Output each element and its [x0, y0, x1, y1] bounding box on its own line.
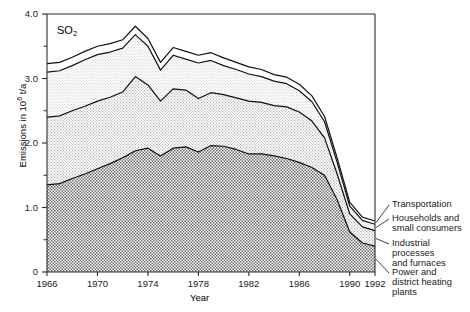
- chart-figure: SO2 Emissions in 106 t/a Year 4.03.02.01…: [0, 0, 470, 312]
- x-tick-label: 1982: [229, 278, 269, 289]
- x-tick-label: 1974: [128, 278, 168, 289]
- legend-item-1: Households andsmall consumers: [392, 214, 462, 234]
- legend-item-0: Transportation: [392, 200, 452, 210]
- legend-leader-3: [376, 259, 389, 273]
- y-tick-label: 3.0: [12, 73, 38, 84]
- legend-item-line: Transportation: [392, 200, 452, 210]
- x-tick-label: 1966: [27, 278, 67, 289]
- legend-leader-2: [376, 239, 389, 245]
- y-tick-label: 2.0: [12, 137, 38, 148]
- so2-subscript: 2: [73, 29, 77, 38]
- y-tick-label: 4.0: [12, 8, 38, 19]
- legend-item-3: Power anddistrict heatingplants: [392, 268, 452, 297]
- x-tick-label: 1978: [178, 278, 218, 289]
- x-tick-label: 1986: [279, 278, 319, 289]
- y-tick-label: 0: [12, 266, 38, 277]
- x-axis-ticks: [47, 272, 375, 276]
- y-tick-label: 1.0: [12, 202, 38, 213]
- area-bands: [47, 26, 375, 272]
- legend-item-2: Industrialprocessesand furnaces: [392, 239, 446, 268]
- x-axis-label: Year: [190, 292, 209, 303]
- y-axis-label: Emissions in 106 t/a: [16, 66, 27, 186]
- x-tick-label: 1970: [77, 278, 117, 289]
- x-tick-label: 1992: [355, 278, 395, 289]
- legend-item-line: small consumers: [392, 224, 462, 234]
- y-axis-ticks: [42, 14, 47, 272]
- legend-leader-lines: [376, 205, 389, 273]
- series-annotation-so2: SO2: [57, 24, 77, 38]
- y-axis-label-exponent: 6: [16, 97, 23, 101]
- legend-item-line: plants: [392, 288, 452, 298]
